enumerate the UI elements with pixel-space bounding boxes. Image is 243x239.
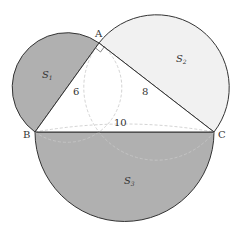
side-label-ac: 8 [142,86,148,97]
side-label-ab: 6 [73,86,79,97]
vertex-label-c: C [218,129,226,140]
side-label-bc: 10 [114,117,127,128]
vertex-label-b: B [23,129,30,140]
vertex-label-a: A [94,28,103,39]
geometry-diagram: A B C 6 8 10 S1 S2 S3 [0,0,243,239]
